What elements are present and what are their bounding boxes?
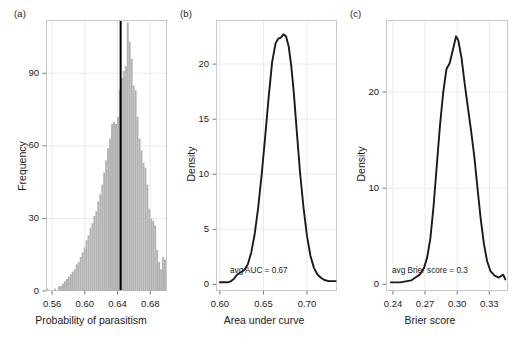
- ytick-label: 5: [174, 223, 209, 234]
- panel-a-ylabel: Frequency: [16, 126, 28, 206]
- panel-b-ylabel: Density: [185, 129, 197, 199]
- xtick-label: 0.65: [243, 298, 283, 309]
- panel-a: (a) Frequency Probability of parasitism …: [0, 0, 172, 337]
- xtick-label: 0.33: [469, 298, 509, 309]
- panel-b: (b) Density avg AUC = 0.67 Area under cu…: [172, 0, 342, 337]
- ytick-label: 0: [4, 285, 39, 296]
- panel-c: (c) Density avg Brier score = 0.3 Brier …: [342, 0, 513, 337]
- ytick-label: 20: [174, 58, 209, 69]
- panel-a-xlabel: Probability of parasitism: [16, 314, 166, 326]
- ytick-label: 0: [344, 278, 379, 289]
- ytick-label: 60: [4, 139, 39, 150]
- panel-c-annotation: avg Brier score = 0.3: [392, 266, 468, 275]
- ytick-label: 10: [344, 182, 379, 193]
- xtick-label: 0.60: [200, 298, 240, 309]
- ytick-label: 30: [4, 212, 39, 223]
- panel-b-xlabel: Area under curve: [194, 314, 334, 326]
- ytick-label: 20: [344, 86, 379, 97]
- figure-container: (a) Frequency Probability of parasitism …: [0, 0, 513, 337]
- xtick-label: 0.68: [130, 298, 170, 309]
- panel-c-xlabel: Brier score: [370, 314, 490, 326]
- ytick-label: 15: [174, 113, 209, 124]
- ytick-label: 10: [174, 168, 209, 179]
- xtick-label: 0.70: [287, 298, 327, 309]
- ytick-label: 0: [174, 278, 209, 289]
- ytick-label: 90: [4, 67, 39, 78]
- panel-b-annotation: avg AUC = 0.67: [230, 266, 288, 275]
